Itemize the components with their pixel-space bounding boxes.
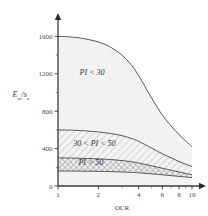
y-tick-label: 800 <box>42 108 53 116</box>
y-axis-title: Eur/su <box>4 91 38 101</box>
chart-figure: Eur/su <box>0 0 208 216</box>
chart-svg: 040080012001600 1246810 PI < 3030 < PI <… <box>0 0 208 216</box>
x-tick-label: 8 <box>177 191 181 199</box>
band-label: 30 < PI < 50 <box>72 139 115 148</box>
x-tick-label: 4 <box>137 191 141 199</box>
x-tick-label: 6 <box>161 191 165 199</box>
x-tick-label: 10 <box>189 191 197 199</box>
y-tick-label: 1600 <box>39 33 54 41</box>
band-label: PI > 50 <box>77 158 103 167</box>
x-tick-label: 1 <box>56 191 60 199</box>
x-axis-ticks: 1246810 <box>56 186 196 199</box>
y-axis-arrow <box>55 13 61 20</box>
y-axis-title-u: u <box>27 96 30 101</box>
x-axis-arrow <box>199 183 206 189</box>
y-tick-label: 1200 <box>39 70 54 78</box>
x-axis-title: OCR <box>115 204 130 212</box>
band-label: PI < 30 <box>79 68 105 77</box>
y-axis-ticks: 040080012001600 <box>39 33 59 191</box>
y-tick-label: 0 <box>49 183 53 191</box>
y-tick-label: 400 <box>42 145 53 153</box>
x-tick-label: 2 <box>97 191 101 199</box>
